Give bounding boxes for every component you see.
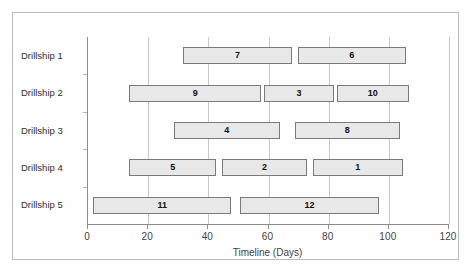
gantt-bar-label: 1	[355, 163, 360, 172]
gantt-bar-task-3[interactable]: 3	[264, 85, 333, 102]
gantt-bar-task-2[interactable]: 2	[222, 159, 306, 176]
x-tick-100	[388, 224, 389, 229]
y-axis-label-drillship-2: Drillship 2	[21, 87, 83, 98]
gantt-bar-task-12[interactable]: 12	[240, 197, 378, 214]
x-tick-label-60: 60	[248, 231, 288, 242]
x-tick-40	[207, 224, 208, 229]
x-tick-80	[328, 224, 329, 229]
x-tick-60	[268, 224, 269, 229]
gridline-120	[449, 37, 450, 224]
gantt-bar-label: 5	[170, 163, 175, 172]
x-axis-title: Timeline (Days)	[87, 247, 448, 258]
gantt-bar-label: 11	[157, 201, 167, 210]
gantt-bar-label: 7	[235, 51, 240, 60]
x-tick-label-80: 80	[308, 231, 348, 242]
gantt-bar-label: 8	[345, 126, 350, 135]
gantt-bar-label: 2	[262, 163, 267, 172]
x-tick-label-20: 20	[127, 231, 167, 242]
gantt-bar-task-1[interactable]: 1	[313, 159, 403, 176]
y-axis-label-drillship-3: Drillship 3	[21, 125, 83, 136]
gantt-bar-label: 4	[224, 126, 229, 135]
y-axis-label-drillship-4: Drillship 4	[21, 162, 83, 173]
y-tick-4	[83, 187, 87, 188]
x-tick-0	[87, 224, 88, 229]
y-axis-label-drillship-1: Drillship 1	[21, 50, 83, 61]
gantt-bar-label: 9	[193, 89, 198, 98]
gantt-bar-task-9[interactable]: 9	[129, 85, 261, 102]
y-tick-3	[83, 149, 87, 150]
gantt-bar-task-8[interactable]: 8	[295, 122, 400, 139]
gantt-bar-task-6[interactable]: 6	[298, 47, 406, 64]
x-tick-label-0: 0	[67, 231, 107, 242]
gantt-bar-task-10[interactable]: 10	[337, 85, 409, 102]
x-tick-label-120: 120	[428, 231, 468, 242]
x-tick-label-40: 40	[187, 231, 227, 242]
y-tick-1	[83, 74, 87, 75]
y-axis-label-drillship-5: Drillship 5	[21, 199, 83, 210]
gantt-bar-task-11[interactable]: 11	[93, 197, 231, 214]
gantt-bar-task-7[interactable]: 7	[183, 47, 291, 64]
gantt-bar-label: 10	[368, 89, 378, 98]
x-tick-20	[147, 224, 148, 229]
y-tick-2	[83, 112, 87, 113]
x-tick-120	[448, 224, 449, 229]
gantt-bar-task-5[interactable]: 5	[129, 159, 216, 176]
gantt-bar-label: 12	[305, 201, 315, 210]
gantt-bar-label: 3	[297, 89, 302, 98]
gantt-bar-label: 6	[349, 51, 354, 60]
chart-frame: 020406080100120 Drillship 1Drillship 2Dr…	[12, 12, 459, 260]
x-tick-label-100: 100	[368, 231, 408, 242]
gantt-bar-task-4[interactable]: 4	[174, 122, 279, 139]
